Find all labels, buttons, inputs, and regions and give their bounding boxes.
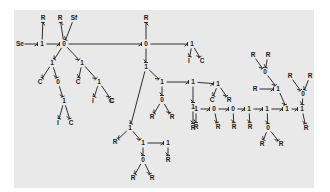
node-r10: R <box>150 174 155 181</box>
bond-line <box>197 82 213 83</box>
node-j1i: 1 <box>191 78 195 85</box>
node-i1: I <box>57 119 59 126</box>
node-j0d: 0 <box>160 96 164 103</box>
bond-line <box>190 48 191 56</box>
node-r5: R <box>170 113 175 120</box>
bond-line <box>266 59 267 67</box>
node-j1s: 1 <box>300 105 304 112</box>
node-j0c: 0 <box>144 40 148 47</box>
node-j1m: 1 <box>166 139 170 146</box>
node-j1b: 1 <box>50 59 54 66</box>
node-i3: I <box>188 57 190 64</box>
bond-graph-diagram: Se1R0RSf1C01IC1C1ICR01IC1C110RR1R1R11R0R… <box>0 0 330 192</box>
bond-line <box>249 113 250 122</box>
bond-line <box>267 113 268 123</box>
node-j1t: 1 <box>276 85 280 92</box>
bond-line <box>67 47 79 59</box>
node-j1o: 1 <box>194 105 198 112</box>
bond-line <box>264 132 267 140</box>
node-j0b: 0 <box>56 78 60 85</box>
bond-graph-nodes: Se1R0RSf1C01IC1C1ICR01IC1C110RR1R1R11R0R… <box>16 14 313 181</box>
node-j1l: 1 <box>141 139 145 146</box>
node-rt1: R <box>251 51 256 58</box>
node-j1a: 1 <box>40 40 44 47</box>
node-j1c: 1 <box>62 97 66 104</box>
node-j1n: 1 <box>216 80 220 87</box>
node-rm1: R <box>253 85 258 92</box>
node-j1e: 1 <box>97 78 101 85</box>
node-rb2: R <box>216 123 221 130</box>
node-r3: R <box>144 14 149 21</box>
node-j0h: 0 <box>266 124 270 131</box>
node-j1k: 1 <box>128 124 132 131</box>
node-j1g: 1 <box>144 63 148 70</box>
node-c6: C <box>109 97 114 104</box>
node-r11: R <box>227 96 232 103</box>
bond-lines <box>25 22 309 175</box>
node-rb6: R <box>279 140 284 147</box>
node-rb1: R <box>194 123 199 130</box>
node-j0a: 0 <box>62 40 66 47</box>
bond-line <box>54 48 61 59</box>
node-j1p: 1 <box>247 105 251 112</box>
node-c5: C <box>200 57 205 64</box>
node-r8: R <box>166 156 171 163</box>
node-r2: R <box>58 14 63 21</box>
causal-stroke-icon <box>59 22 63 23</box>
node-r4: R <box>150 113 155 120</box>
bond-line <box>42 22 43 39</box>
bond-line <box>214 88 217 96</box>
bond-line <box>59 105 63 118</box>
node-j0f: 0 <box>212 105 216 112</box>
node-j1d: 1 <box>80 59 84 66</box>
bond-line <box>154 104 159 113</box>
node-r9: R <box>131 174 136 181</box>
node-rb7: R <box>304 124 309 131</box>
node-i2: I <box>92 97 94 104</box>
node-rb3: R <box>232 123 237 130</box>
node-r7: R <box>113 138 118 145</box>
node-j0g: 0 <box>231 105 235 112</box>
bond-line <box>79 67 81 77</box>
bond-line <box>42 67 49 78</box>
node-rt3: R <box>288 72 293 79</box>
bond-line <box>85 66 96 78</box>
bond-line <box>118 131 126 139</box>
node-j1f: 1 <box>190 40 194 47</box>
node-rt2: R <box>266 51 271 58</box>
node-j0i: 0 <box>263 68 267 75</box>
node-rb5: R <box>260 140 265 147</box>
bond-line <box>233 113 234 122</box>
node-j0e: 0 <box>141 156 145 163</box>
node-c3: C <box>76 78 81 85</box>
node-r1: R <box>41 14 46 21</box>
node-c2: C <box>69 119 74 126</box>
node-j1h: 1 <box>160 78 164 85</box>
bond-line <box>133 131 140 139</box>
bond-line <box>94 86 97 96</box>
bond-line <box>131 71 145 123</box>
node-j1r: 1 <box>285 105 289 112</box>
node-j1q: 1 <box>265 105 269 112</box>
node-rb4: R <box>248 123 253 130</box>
bond-line <box>271 131 278 140</box>
node-c7: C <box>210 96 215 103</box>
node-sf: Sf <box>71 14 78 21</box>
bond-line <box>135 164 141 174</box>
node-rt4: R <box>308 72 313 79</box>
bond-line <box>268 76 276 86</box>
bond-line <box>305 80 309 90</box>
bond-line <box>293 80 301 91</box>
node-c1: C <box>38 78 43 85</box>
bond-line <box>66 22 73 40</box>
bond-line <box>149 70 158 79</box>
node-se: Se <box>16 40 24 47</box>
bond-line <box>102 86 110 98</box>
node-j0j: 0 <box>301 90 305 97</box>
